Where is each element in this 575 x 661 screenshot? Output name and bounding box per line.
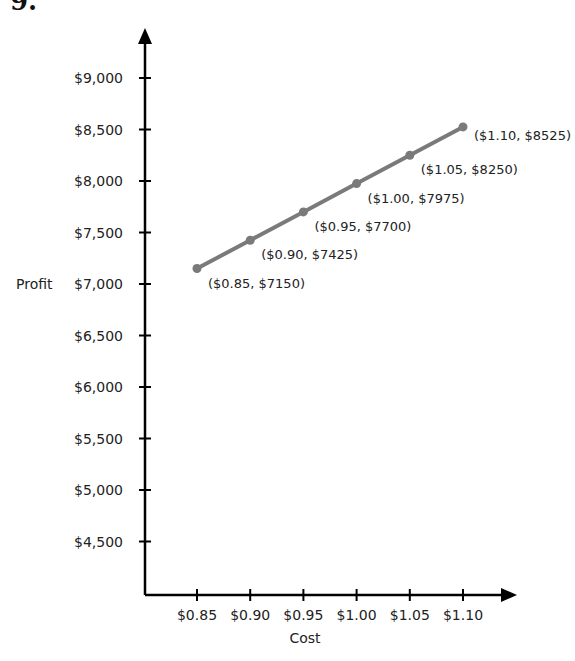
y-tick-label: $8,000 — [74, 173, 123, 189]
x-axis-arrow-icon — [501, 588, 517, 602]
y-tick-label: $6,000 — [74, 379, 123, 395]
x-axis-title: Cost — [289, 630, 321, 646]
y-tick-label: $6,500 — [74, 328, 123, 344]
x-tick-label: $0.90 — [230, 607, 270, 623]
data-point-label: ($1.00, $7975) — [368, 191, 465, 206]
data-point-label: ($1.10, $8525) — [474, 128, 571, 143]
y-tick-label: $7,500 — [74, 225, 123, 241]
data-point — [352, 179, 361, 188]
y-tick-label: $4,500 — [74, 534, 123, 550]
data-point-label: ($0.95, $7700) — [314, 219, 411, 234]
x-tick-label: $0.85 — [177, 607, 217, 623]
y-tick-label: $8,500 — [74, 122, 123, 138]
y-axis-arrow-icon — [138, 28, 152, 44]
y-tick-label: $7,000 — [74, 276, 123, 292]
data-point — [405, 151, 414, 160]
y-tick-label: $5,500 — [74, 431, 123, 447]
x-tick-label: $1.05 — [390, 607, 430, 623]
y-axis-title: Profit — [16, 276, 53, 292]
data-point — [299, 207, 308, 216]
data-point — [193, 264, 202, 273]
data-point — [246, 236, 255, 245]
x-tick-label: $0.95 — [283, 607, 323, 623]
y-tick-label: $5,000 — [74, 482, 123, 498]
y-tick-label: $9,000 — [74, 70, 123, 86]
x-tick-label: $1.00 — [337, 607, 377, 623]
data-point-label: ($0.90, $7425) — [261, 247, 358, 262]
x-tick-label: $1.10 — [443, 607, 483, 623]
data-point — [459, 122, 468, 131]
data-point-label: ($1.05, $8250) — [421, 162, 518, 177]
line-chart: $4,500$5,000$5,500$6,000$6,500$7,000$7,5… — [0, 0, 575, 661]
data-point-label: ($0.85, $7150) — [208, 276, 305, 291]
